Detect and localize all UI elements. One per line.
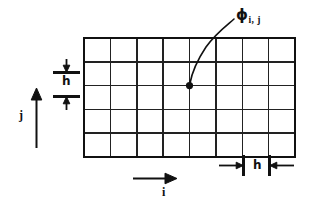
node-label-phi: ϕi, j (236, 8, 261, 23)
diagram-linework (0, 0, 312, 211)
spacing-label-horizontal: h (253, 159, 262, 171)
phi-symbol: ϕ (236, 6, 248, 24)
diagram-canvas: ϕi, j h h i j (0, 0, 312, 211)
spacing-label-vertical: h (62, 75, 71, 87)
axis-label-i: i (162, 186, 165, 198)
axis-arrow-i (133, 173, 177, 184)
grid-inner-lines (84, 38, 295, 157)
phi-subscript: i, j (248, 15, 261, 25)
axis-label-j: j (19, 109, 23, 121)
axis-arrow-j (31, 88, 42, 148)
leader-line-phi (190, 19, 234, 84)
